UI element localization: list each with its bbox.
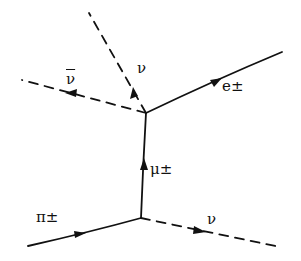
muon-arrow-icon xyxy=(140,158,148,170)
neutrino-bottom-label: ν xyxy=(207,212,216,227)
antineutrino-line xyxy=(22,80,146,113)
neutrino-bottom-arrow-icon xyxy=(193,226,206,234)
antineutrino-arrow-icon xyxy=(65,89,77,97)
muon-label: μ± xyxy=(150,162,172,177)
electron-arrow-icon xyxy=(210,78,222,87)
electron-label: e± xyxy=(222,79,243,94)
neutrino-top-label: ν xyxy=(137,61,146,76)
feynman-diagram: π± ν μ± e± ν ν xyxy=(0,0,301,261)
antineutrino-label: ν xyxy=(66,72,75,87)
pion-label: π± xyxy=(36,210,58,225)
